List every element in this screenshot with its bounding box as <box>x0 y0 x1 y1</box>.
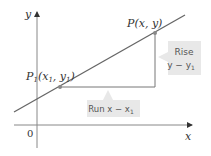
run-callout: Run x − x1 <box>87 90 140 117</box>
slope-diagram: Rise y − y1 Run x − x1 y x 0 P(x, y) P1(… <box>0 0 211 156</box>
diagram-canvas: Rise y − y1 Run x − x1 y x 0 P(x, y) P1(… <box>0 0 211 156</box>
x-axis-label: x <box>185 130 192 143</box>
rise-callout: Rise y − y1 <box>158 41 201 75</box>
point-p-label: P(x, y) <box>126 17 162 30</box>
point-p1-label: P1(x1, y1) <box>25 70 75 84</box>
svg-text:Rise: Rise <box>175 47 194 57</box>
y-axis-label: y <box>24 8 32 21</box>
svg-text:y − y1: y − y1 <box>167 60 195 71</box>
svg-text:Run x − x1: Run x − x1 <box>88 104 134 115</box>
origin-label: 0 <box>27 128 33 139</box>
point-p1 <box>58 85 62 89</box>
point-p <box>153 31 157 35</box>
